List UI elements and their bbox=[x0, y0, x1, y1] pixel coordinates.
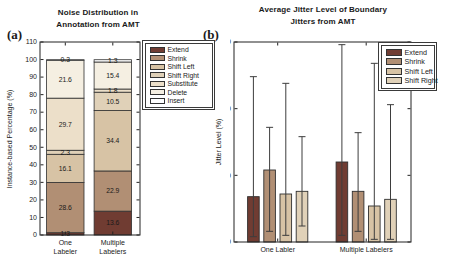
y-axis-tick-label: 100 bbox=[25, 56, 37, 63]
y-axis-tick-label: 110 bbox=[26, 38, 37, 45]
segment-value-label: 1.8 bbox=[108, 87, 118, 94]
panel-a-legend-items: ExtendShrinkShift LeftShift RightSubstit… bbox=[145, 43, 213, 108]
panel-a-title: Noise Distribution in Annotation from AM… bbox=[40, 7, 156, 31]
legend-item-delete: Delete bbox=[150, 89, 208, 96]
panel-b-ylabel: Jitter Level (%) bbox=[215, 119, 222, 166]
y-axis-tick-label: 100 bbox=[230, 105, 231, 112]
legend-swatch bbox=[386, 68, 402, 75]
legend-label: Shift Right bbox=[405, 77, 438, 85]
legend-swatch bbox=[150, 72, 165, 78]
legend-swatch bbox=[386, 77, 402, 84]
legend-item-substitute: Substitute bbox=[150, 80, 208, 87]
legend-item-shrink: Shrink bbox=[386, 58, 430, 66]
panel-b-title: Average Jitter Level of Boundary Jitters… bbox=[240, 4, 406, 28]
segment-value-label: 21.6 bbox=[59, 76, 72, 83]
panel-a-tag: (a) bbox=[7, 28, 22, 41]
y-axis-tick-label: 10 bbox=[29, 214, 37, 221]
legend-swatch bbox=[150, 81, 165, 87]
legend-label: Extend bbox=[405, 49, 427, 57]
figure: 01020304050607080901001101.328.616.12.32… bbox=[0, 0, 452, 276]
x-category-label: One Labler bbox=[260, 246, 295, 253]
legend-item-shift-left: Shift Left bbox=[150, 63, 208, 70]
legend-label: Shrink bbox=[405, 58, 425, 66]
legend-swatch bbox=[386, 58, 402, 65]
x-category-label: Multiple Labelers bbox=[340, 246, 393, 254]
legend-label: Extend bbox=[168, 46, 189, 53]
legend-item-shift-right: Shift Right bbox=[386, 77, 430, 85]
y-axis-tick-label: 150 bbox=[230, 38, 231, 45]
segment-value-label: 28.6 bbox=[59, 204, 72, 211]
x-category-label: One bbox=[59, 239, 72, 246]
legend-item-shrink: Shrink bbox=[150, 55, 208, 62]
legend-label: Shift Right bbox=[168, 72, 199, 79]
y-axis-tick-label: 0 bbox=[230, 238, 231, 245]
panel-b-title-line2: Jitters from AMT bbox=[240, 16, 406, 28]
y-axis-tick-label: 0 bbox=[33, 231, 37, 238]
legend-label: Shift Left bbox=[405, 68, 433, 76]
segment-value-label: 1.3 bbox=[108, 57, 118, 64]
legend-swatch bbox=[150, 55, 165, 61]
segment-value-label: 22.9 bbox=[106, 187, 119, 194]
y-axis-tick-label: 90 bbox=[29, 73, 37, 80]
panel-b-legend: ExtendShrinkShift LeftShift Right bbox=[378, 42, 437, 91]
legend-item-extend: Extend bbox=[386, 49, 430, 57]
segment-value-label: 0.3 bbox=[61, 56, 71, 63]
legend-swatch bbox=[386, 49, 402, 56]
y-axis-tick-label: 70 bbox=[29, 108, 37, 115]
y-axis-tick-label: 60 bbox=[29, 126, 37, 133]
x-category-label: Labelers bbox=[99, 248, 126, 255]
y-axis-tick-label: 30 bbox=[29, 179, 37, 186]
y-axis-tick-label: 50 bbox=[230, 172, 231, 179]
legend-swatch bbox=[150, 64, 165, 70]
legend-swatch bbox=[150, 89, 165, 95]
panel-b-legend-items: ExtendShrinkShift LeftShift Right bbox=[381, 45, 435, 89]
legend-label: Substitute bbox=[168, 80, 198, 87]
legend-item-shift-left: Shift Left bbox=[386, 68, 430, 76]
panel-a-legend: ExtendShrinkShift LeftShift RightSubstit… bbox=[142, 40, 215, 110]
x-category-label: Multiple bbox=[101, 239, 125, 247]
legend-swatch bbox=[150, 47, 165, 53]
segment-value-label: 1.3 bbox=[61, 230, 71, 237]
segment-value-label: 29.7 bbox=[59, 121, 72, 128]
y-axis-tick-label: 80 bbox=[29, 91, 37, 98]
segment-value-label: 13.6 bbox=[106, 219, 119, 226]
segment-value-label: 34.4 bbox=[106, 137, 119, 144]
legend-item-extend: Extend bbox=[150, 46, 208, 53]
segment-value-label: 10.5 bbox=[106, 98, 119, 105]
y-axis-tick-label: 50 bbox=[29, 144, 37, 151]
segment-value-label: 15.4 bbox=[106, 72, 119, 79]
y-axis-tick-label: 40 bbox=[29, 161, 37, 168]
x-category-label: Labeler bbox=[54, 248, 78, 255]
panel-b-title-line1: Average Jitter Level of Boundary bbox=[240, 4, 406, 16]
panel-a-ylabel: Instance-based Percentage (%) bbox=[6, 90, 13, 188]
legend-label: Shift Left bbox=[168, 63, 195, 70]
panel-a-title-line1: Noise Distribution in bbox=[40, 7, 156, 19]
legend-swatch bbox=[150, 98, 165, 104]
panel-a-title-line2: Annotation from AMT bbox=[40, 19, 156, 31]
segment-value-label: 16.1 bbox=[59, 165, 72, 172]
segment-value-label: 2.3 bbox=[61, 149, 71, 156]
legend-label: Insert bbox=[168, 97, 185, 104]
legend-item-shift-right: Shift Right bbox=[150, 72, 208, 79]
legend-item-insert: Insert bbox=[150, 97, 208, 104]
legend-label: Delete bbox=[168, 89, 188, 96]
y-axis-tick-label: 20 bbox=[29, 196, 37, 203]
legend-label: Shrink bbox=[168, 55, 187, 62]
